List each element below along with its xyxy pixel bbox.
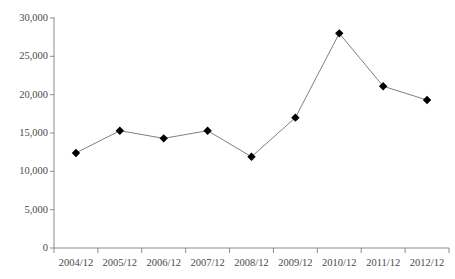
x-axis-tick-label: 2005/12: [103, 257, 137, 268]
x-axis-tick-label: 2006/12: [147, 257, 181, 268]
y-axis-labels: 30,00025,00020,00015,00010,0005,0000: [2, 0, 48, 279]
x-axis-tick-label: 2004/12: [59, 257, 93, 268]
y-axis-tick-label: 5,000: [4, 205, 48, 216]
data-point-marker: [160, 134, 168, 142]
x-axis-tick-label: 2011/12: [366, 257, 400, 268]
x-axis-tick-label: 2010/12: [322, 257, 356, 268]
x-axis-tick-label: 2009/12: [278, 257, 312, 268]
line-chart-plot: [0, 0, 455, 279]
y-axis-tick-label: 0: [4, 243, 48, 254]
y-axis-tick-label: 15,000: [4, 128, 48, 139]
y-axis-tick-label: 10,000: [4, 166, 48, 177]
y-axis-tick-label: 30,000: [4, 13, 48, 24]
y-axis-tick-label: 25,000: [4, 51, 48, 62]
chart-figure: 30,00025,00020,00015,00010,0005,0000 200…: [0, 0, 455, 279]
data-point-marker: [72, 149, 80, 157]
x-axis-tick-label: 2007/12: [190, 257, 224, 268]
x-axis-labels: 2004/122005/122006/122007/122008/122009/…: [0, 255, 455, 275]
data-series-line: [76, 33, 427, 156]
x-axis-tick-label: 2008/12: [234, 257, 268, 268]
data-point-marker: [116, 127, 124, 135]
data-point-marker: [423, 96, 431, 104]
y-axis-tick-label: 20,000: [4, 90, 48, 101]
x-axis-tick-label: 2012/12: [410, 257, 444, 268]
data-point-marker: [203, 127, 211, 135]
